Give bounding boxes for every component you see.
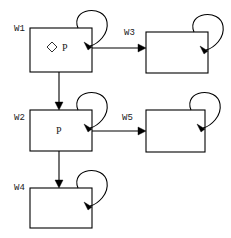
node-w5-label: W5 xyxy=(122,113,133,123)
edge-w2-to-w5-arrowhead xyxy=(138,127,146,135)
edge-w1-to-w3-arrowhead xyxy=(138,44,146,52)
node-w5[interactable]: W5 xyxy=(122,93,220,152)
edge-w2-to-w4-arrowhead xyxy=(55,180,63,188)
node-w3-label: W3 xyxy=(124,28,135,38)
node-w1-content: P xyxy=(62,42,68,53)
node-w2-content: P xyxy=(56,125,62,136)
diagram-svg: W1 P W3 W2 P W5 xyxy=(0,0,231,238)
node-w4-label: W4 xyxy=(14,183,25,193)
node-w5-box[interactable] xyxy=(146,110,205,152)
diagram-canvas: W1 P W3 W2 P W5 xyxy=(0,0,231,238)
node-w1[interactable]: W1 P xyxy=(14,11,107,72)
edge-w1-to-w3 xyxy=(92,44,146,52)
node-w4-box[interactable] xyxy=(30,188,92,228)
node-w3-box[interactable] xyxy=(146,32,208,73)
node-w1-label: W1 xyxy=(14,24,25,34)
node-w2[interactable]: W2 P xyxy=(14,93,107,151)
edge-w1-to-w2-arrowhead xyxy=(55,102,63,110)
node-w2-label: W2 xyxy=(14,113,25,123)
edge-w2-to-w4 xyxy=(55,151,63,188)
node-w3[interactable]: W3 xyxy=(124,15,223,73)
edge-w1-to-w2 xyxy=(55,72,63,110)
node-w1-box[interactable] xyxy=(30,28,92,72)
node-w4[interactable]: W4 xyxy=(14,171,107,228)
edge-w2-to-w5 xyxy=(92,127,146,135)
